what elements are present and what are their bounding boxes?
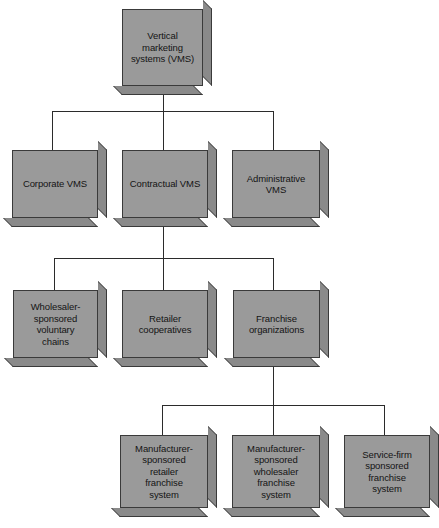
box-side-right [320,281,329,358]
node-label: Contractual VMS [127,178,203,190]
box-side-right [98,281,107,358]
connector-level3-drop-2 [163,258,164,291]
box-side-right [98,141,107,218]
node-contractual-vms[interactable]: Contractual VMS [122,150,208,218]
box-side-right [208,281,217,358]
node-label: Corporate VMS [20,178,90,190]
box-face: Contractual VMS [122,150,208,218]
node-label: Retailer cooperatives [136,313,195,336]
box-side-right [320,141,329,218]
box-side-bottom [113,86,203,95]
box-face: Retailer cooperatives [122,290,208,358]
box-side-bottom [4,358,98,367]
box-side-bottom [223,508,320,517]
node-label: Wholesaler- sponsored voluntary chains [28,301,84,347]
connector-level2-drop-3 [273,111,274,151]
box-side-bottom [223,218,320,227]
connector-level4-drop-1 [162,405,163,436]
node-manufacturer-sponsored-retailer-franchise-system[interactable]: Manufacturer- sponsored retailer franchi… [120,435,208,508]
node-wholesaler-sponsored-voluntary-chains[interactable]: Wholesaler- sponsored voluntary chains [13,290,98,358]
node-label: Franchise organizations [246,313,307,336]
node-label: Manufacturer- sponsored wholesaler franc… [244,443,308,501]
node-manufacturer-sponsored-wholesaler-franchise-system[interactable]: Manufacturer- sponsored wholesaler franc… [232,435,320,508]
box-face: Administrative VMS [232,150,320,218]
node-retailer-cooperatives[interactable]: Retailer cooperatives [122,290,208,358]
node-corporate-vms[interactable]: Corporate VMS [12,150,98,218]
connector-level4-drop-3 [384,405,385,436]
node-label: Administrative VMS [233,173,319,196]
box-face: Manufacturer- sponsored retailer franchi… [120,435,208,508]
node-franchise-organizations[interactable]: Franchise organizations [233,290,320,358]
connector-level3-drop-3 [273,258,274,291]
node-label: Service-firm sponsored franchise system [359,449,414,495]
box-side-bottom [113,218,208,227]
box-side-bottom [111,508,208,517]
node-label: Manufacturer- sponsored retailer franchi… [132,443,196,501]
node-administrative-vms[interactable]: Administrative VMS [232,150,320,218]
node-vertical-marketing-systems[interactable]: Vertical marketing systems (VMS) [122,9,203,86]
box-side-bottom [335,508,430,517]
box-side-right [320,426,329,508]
box-side-bottom [113,358,208,367]
box-face: Service-firm sponsored franchise system [344,435,430,508]
box-face: Franchise organizations [233,290,320,358]
box-side-bottom [224,358,320,367]
box-face: Vertical marketing systems (VMS) [122,9,203,86]
node-service-firm-sponsored-franchise-system[interactable]: Service-firm sponsored franchise system [344,435,430,508]
vms-hierarchy-diagram: Vertical marketing systems (VMS) Corpora… [0,0,439,528]
box-face: Manufacturer- sponsored wholesaler franc… [232,435,320,508]
connector-level2-drop-1 [52,111,53,151]
box-side-bottom [3,218,98,227]
box-side-right [430,426,439,508]
box-face: Corporate VMS [12,150,98,218]
box-side-right [208,426,217,508]
box-side-right [208,141,217,218]
node-label: Vertical marketing systems (VMS) [128,30,197,65]
connector-level2-drop-2 [163,111,164,151]
connector-level3-drop-1 [54,258,55,291]
connector-level4-drop-2 [273,405,274,436]
box-side-right [203,0,212,86]
box-face: Wholesaler- sponsored voluntary chains [13,290,98,358]
